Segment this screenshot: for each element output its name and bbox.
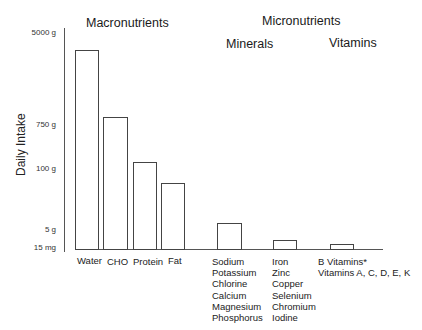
list-item: Potassium — [212, 267, 263, 278]
macronutrients-title: Macronutrients — [86, 16, 169, 30]
minerals-title: Minerals — [226, 37, 273, 51]
vitamins-list: B Vitamins* Vitamins A, C, D, E, K — [318, 256, 410, 278]
list-item: Calcium — [212, 290, 263, 301]
y-tick-750g: 750 g — [6, 120, 56, 129]
list-item: Zinc — [272, 267, 316, 278]
trace-minerals-list: Iron Zinc Copper Selenium Chromium Iodin… — [272, 256, 316, 323]
list-item: Chromium — [272, 301, 316, 312]
bar-trace-minerals — [273, 240, 297, 250]
y-tick-5g: 5 g — [6, 225, 56, 234]
bar-vitamins — [330, 244, 354, 250]
bar-water — [75, 50, 99, 250]
y-tick-100g: 100 g — [6, 164, 56, 173]
list-item: Magnesium — [212, 301, 263, 312]
y-tick-15mg: 15 mg — [6, 243, 56, 252]
list-item: Phosphorus — [212, 312, 263, 323]
list-item: Chlorine — [212, 278, 263, 289]
list-item: Iodine — [272, 312, 316, 323]
x-label-fat: Fat — [168, 255, 182, 266]
bar-major-minerals — [217, 223, 242, 250]
list-item: Vitamins A, C, D, E, K — [318, 267, 410, 278]
x-label-cho: CHO — [107, 256, 128, 267]
list-item: Selenium — [272, 290, 316, 301]
vitamins-title: Vitamins — [329, 36, 377, 50]
list-item: Copper — [272, 278, 316, 289]
list-item: Sodium — [212, 256, 263, 267]
bar-protein — [133, 162, 157, 250]
list-item: B Vitamins* — [318, 256, 410, 267]
bar-fat — [161, 183, 185, 250]
bar-cho — [103, 117, 128, 250]
list-item: Iron — [272, 256, 316, 267]
major-minerals-list: Sodium Potassium Chlorine Calcium Magnes… — [212, 256, 263, 323]
x-label-water: Water — [77, 255, 102, 266]
x-label-protein: Protein — [133, 256, 163, 267]
y-axis — [64, 28, 65, 252]
y-tick-5000g: 5000 g — [6, 28, 56, 37]
micronutrients-title: Micronutrients — [262, 14, 341, 28]
